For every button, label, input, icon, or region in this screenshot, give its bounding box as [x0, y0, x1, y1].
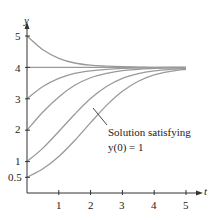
axes — [25, 22, 204, 196]
x-tick-label-3: 3 — [119, 200, 125, 211]
solution-curve — [27, 36, 186, 67]
solution-curves — [27, 36, 186, 177]
x-tick-label-5: 5 — [183, 200, 189, 211]
x-tick-label-1: 1 — [56, 200, 62, 211]
solution-curve — [27, 68, 186, 130]
y-tick-label-1: 1 — [15, 156, 21, 167]
solution-curve — [27, 69, 186, 177]
x-tick-label-4: 4 — [151, 200, 157, 211]
y-tick-label-2: 2 — [15, 124, 21, 135]
y-tick-label-3: 3 — [15, 94, 21, 105]
y-axis-label: y — [24, 15, 29, 26]
solution-curve — [27, 67, 186, 98]
annotation-leader-line — [93, 108, 107, 125]
annotation-text-line2: y(0) = 1 — [108, 142, 144, 153]
annotation-text-line1: Solution satisfying — [108, 127, 191, 138]
y-tick-label-0-5: 0.5 — [8, 172, 22, 183]
y-tick-label-5: 5 — [15, 31, 21, 42]
x-tick-label-2: 2 — [88, 200, 94, 211]
x-axis-label: t — [204, 186, 207, 197]
chart-canvas — [0, 0, 213, 220]
y-tick-label-4: 4 — [15, 63, 21, 74]
